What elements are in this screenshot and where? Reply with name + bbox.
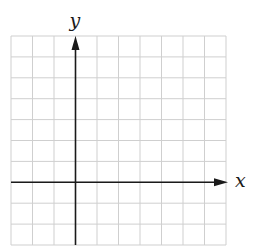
x-axis-label: x — [235, 169, 246, 191]
grid-lines — [11, 36, 226, 245]
y-axis-arrow-icon — [72, 36, 80, 50]
coordinate-plane: x y — [0, 0, 254, 248]
y-axis-label: y — [69, 9, 81, 31]
